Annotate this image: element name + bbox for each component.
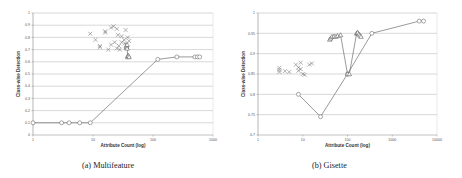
data-point-circle: [370, 31, 374, 35]
series-crosses: [277, 61, 314, 77]
data-point-circle: [422, 19, 426, 23]
data-point-circle: [156, 57, 160, 61]
y-tick-label: 0.8: [25, 36, 30, 40]
y-axis-label: Class-wise Detection: [241, 51, 246, 97]
data-point-circle: [319, 115, 323, 119]
data-point-circle: [296, 92, 300, 96]
chart-multifeature: 00.10.20.30.40.50.60.70.80.911101001000A…: [16, 11, 217, 148]
x-axis-label: Attribute Count (log): [101, 143, 146, 148]
y-tick-label: 0.9: [250, 52, 255, 56]
x-tick-label: 1: [32, 138, 34, 142]
y-tick-label: 1: [253, 11, 255, 15]
series-circles: [31, 55, 202, 125]
x-tick-label: 100: [150, 138, 156, 142]
y-tick-label: 0.6: [25, 60, 30, 64]
caption-gisette: (b) Gisette: [312, 161, 347, 170]
series-triangles: [124, 43, 131, 59]
y-tick-label: 0.9: [25, 23, 30, 27]
data-point-cross: [299, 61, 303, 65]
data-point-cross: [124, 28, 128, 32]
y-tick-label: 0.4: [25, 84, 30, 88]
data-point-circle: [198, 55, 202, 59]
data-point-circle: [78, 121, 82, 125]
y-tick-label: 0.7: [25, 48, 30, 52]
x-axis-label: Attribute Count (log): [325, 143, 370, 148]
caption-multifeature: (a) Multifeature: [82, 161, 134, 170]
data-point-circle: [417, 19, 421, 23]
y-tick-label: 0.2: [25, 109, 30, 113]
data-point-cross: [296, 65, 300, 69]
data-point-cross: [113, 40, 117, 44]
y-axis-label: Class-wise Detection: [16, 51, 21, 97]
data-point-cross: [109, 43, 113, 47]
data-point-circle: [88, 121, 92, 125]
chart-gisette: 0.70.750.80.850.90.951110100100010000Att…: [241, 11, 442, 148]
data-point-cross: [283, 69, 287, 73]
x-tick-label: 1000: [388, 138, 396, 142]
y-tick-label: 1: [28, 11, 30, 15]
y-tick-label: 0: [28, 133, 30, 137]
y-tick-label: 0.95: [248, 32, 255, 36]
data-point-circle: [31, 121, 35, 125]
data-point-cross: [93, 38, 97, 42]
series-triangles: [327, 30, 363, 75]
data-point-cross: [117, 44, 121, 48]
data-point-cross: [299, 67, 303, 71]
data-point-cross: [296, 69, 300, 73]
data-point-cross: [115, 27, 119, 31]
data-point-cross: [127, 39, 131, 43]
data-point-circle: [175, 55, 179, 59]
y-tick-label: 0.8: [250, 93, 255, 97]
figure: 00.10.20.30.40.50.60.70.80.911101001000A…: [0, 0, 462, 178]
x-tick-label: 100: [345, 138, 351, 142]
x-tick-label: 10: [91, 138, 95, 142]
data-point-cross: [277, 66, 281, 70]
series-line-triangles: [330, 33, 361, 74]
y-tick-label: 0.7: [250, 133, 255, 137]
x-tick-label: 10000: [432, 138, 442, 142]
data-point-circle: [67, 121, 71, 125]
y-tick-label: 0.85: [248, 72, 255, 76]
series-line-circles: [33, 57, 200, 123]
data-point-cross: [303, 73, 307, 77]
data-point-cross: [122, 38, 126, 42]
data-point-cross: [287, 70, 291, 74]
data-point-circle: [60, 121, 64, 125]
data-point-cross: [277, 68, 281, 72]
y-tick-label: 0.3: [25, 97, 30, 101]
y-tick-label: 0.5: [25, 72, 30, 76]
x-tick-label: 10: [301, 138, 305, 142]
y-tick-label: 0.1: [25, 121, 30, 125]
data-point-cross: [88, 32, 92, 36]
y-tick-label: 0.75: [248, 113, 255, 117]
x-tick-label: 1000: [209, 138, 217, 142]
data-point-cross: [277, 70, 281, 74]
x-tick-label: 1: [257, 138, 259, 142]
data-point-cross: [116, 33, 120, 37]
